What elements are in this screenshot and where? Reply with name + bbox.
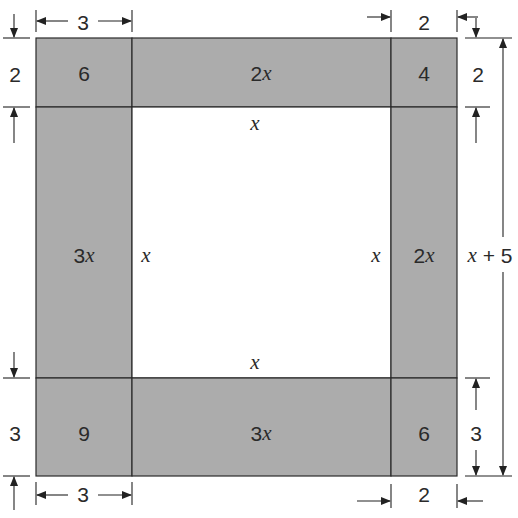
label-bottom-middle: 3x (250, 421, 272, 445)
dim-left-top-height: 2 (3, 14, 30, 143)
dim-label-right-bottom: 3 (470, 422, 482, 445)
label-bottom-right: 6 (418, 422, 430, 445)
inner-label-top: x (249, 111, 260, 135)
dim-label-left-bottom: 3 (9, 422, 21, 445)
label-top-left: 6 (78, 62, 90, 85)
dim-bottom-left-width: 3 (36, 482, 132, 506)
inner-label-right: x (370, 243, 381, 267)
regions (36, 38, 457, 476)
label-top-middle: 2x (250, 61, 272, 85)
dim-label-top-left: 3 (77, 11, 89, 34)
dim-right-total-height: x + 5 (462, 39, 518, 475)
label-middle-left: 3x (73, 243, 95, 267)
inner-label-bottom: x (249, 350, 260, 374)
dim-top-right-width: 2 (367, 10, 478, 34)
dim-right-top-height: 2 (465, 18, 512, 143)
label-bottom-left: 9 (78, 422, 90, 445)
dim-label-bottom-right: 2 (418, 483, 430, 506)
dim-label-left-top: 2 (9, 63, 21, 86)
area-model-diagram: 6 2x 4 3x 2x 9 3x 6 x x x x 3 2 3 2 (0, 0, 518, 518)
inner-label-left: x (140, 243, 151, 267)
dim-bottom-right-width: 2 (357, 483, 483, 509)
dim-label-right-top: 2 (472, 63, 484, 86)
region-middle-left (36, 107, 132, 378)
dim-left-bottom-height: 3 (3, 352, 30, 510)
label-middle-right: 2x (413, 243, 435, 267)
dim-label-top-right: 2 (418, 11, 430, 34)
region-middle-right (391, 107, 457, 378)
dim-right-bottom-height: 3 (465, 378, 512, 476)
label-top-right: 4 (418, 62, 430, 85)
inner-square (132, 107, 391, 378)
dim-label-right-total: x + 5 (467, 243, 513, 267)
dim-top-left-width: 3 (36, 10, 132, 34)
dim-label-bottom-left: 3 (77, 483, 89, 506)
